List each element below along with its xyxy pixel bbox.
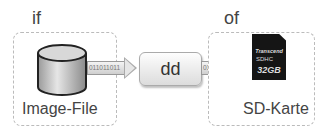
sd-capacity: 32GB [252,65,286,75]
arrow-right-icon: 011011011 [87,57,137,79]
sd-card-icon: Transcend SDHC 32GB [252,34,286,80]
output-top-label: of [224,8,239,29]
dd-label: dd [160,59,180,80]
database-cylinder-icon [36,44,88,96]
sd-type: SDHC [256,56,273,62]
sd-brand: Transcend [252,48,286,54]
output-label: SD-Karte [243,100,309,118]
bits-label: 011011011 [87,61,125,75]
input-top-label: if [32,8,41,29]
input-label: Image-File [22,100,98,118]
dd-process-box: dd [139,52,202,86]
